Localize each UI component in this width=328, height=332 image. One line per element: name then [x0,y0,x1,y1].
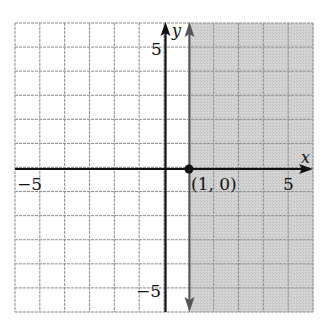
x-tick-neg5: −5 [17,174,42,194]
x-tick-5: 5 [283,174,294,194]
point-label: (1, 0) [191,174,237,194]
inequality-graph: y x −5 5 5 −5 (1, 0) [0,0,328,332]
y-axis-label: y [171,21,182,40]
y-tick-neg5: −5 [136,281,161,301]
point-1-0 [185,165,194,174]
x-axis-label: x [301,148,310,167]
y-tick-5: 5 [151,39,162,59]
